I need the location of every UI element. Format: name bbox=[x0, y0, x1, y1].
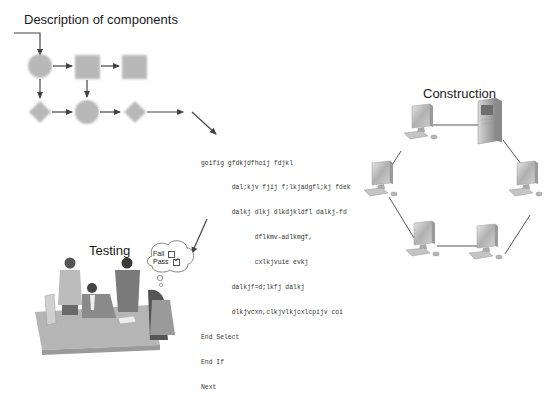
workstation-icon bbox=[406, 221, 439, 256]
thought-bubble-content: Fail Pass bbox=[153, 250, 180, 266]
code-line: goifig gfdkjdfhoij fdjkl bbox=[201, 160, 351, 168]
code-line: dflkmv-adlkmgf, bbox=[201, 234, 351, 242]
fail-label: Fail bbox=[153, 250, 164, 258]
code-line: dal;kjv fjij f;lkjadgfl;kj fdek bbox=[201, 184, 351, 192]
testing-illustration bbox=[35, 258, 175, 356]
code-line: Next bbox=[201, 384, 351, 392]
code-snippet: goifig gfdkjdfhoij fdjkl dal;kjv fjij f;… bbox=[201, 143, 351, 393]
section-title-construction: Construction bbox=[423, 86, 496, 101]
workstation-icon bbox=[509, 161, 542, 196]
section-title-description: Description of components bbox=[24, 12, 178, 27]
network-ring bbox=[389, 125, 530, 254]
workstation-icon bbox=[364, 161, 397, 196]
flow-node-square bbox=[75, 55, 100, 79]
flow-node-circle bbox=[75, 100, 99, 124]
flowchart bbox=[14, 33, 183, 124]
workstation-icon bbox=[469, 224, 502, 259]
server-icon bbox=[478, 98, 502, 144]
pass-label: Pass bbox=[153, 258, 169, 266]
code-line: End Select bbox=[201, 334, 351, 342]
flow-node-circle bbox=[28, 54, 52, 78]
pass-row: Pass bbox=[153, 258, 180, 266]
section-title-testing: Testing bbox=[89, 243, 130, 258]
flow-node-diamond bbox=[124, 101, 146, 123]
code-line: dlkjvcxn,clkjvlkjcxlcpijv coi bbox=[201, 309, 351, 317]
code-line: dalkjf=d;lkfj dalkj bbox=[201, 284, 351, 292]
code-line: cxlkjvuie evkj bbox=[201, 259, 351, 267]
code-line: dalkj dlkj dlkdjkldfl dalkj-fd bbox=[201, 209, 351, 217]
pass-checkbox-checked-icon bbox=[173, 259, 180, 266]
workstation-icon bbox=[404, 104, 437, 139]
flow-node-diamond bbox=[29, 101, 51, 123]
arrow-to-code bbox=[192, 112, 216, 134]
entry-arrow bbox=[14, 33, 40, 55]
code-line: End If bbox=[201, 359, 351, 367]
flow-node-square bbox=[122, 55, 147, 79]
